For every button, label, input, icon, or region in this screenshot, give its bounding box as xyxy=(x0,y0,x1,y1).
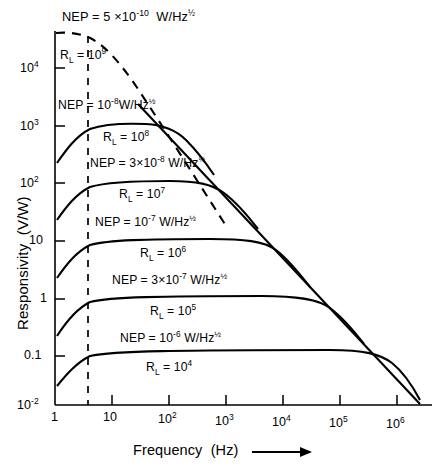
frequency-arrow-icon xyxy=(252,447,312,457)
y-tick-label-1: 1 xyxy=(40,291,47,305)
x-tick-label-1: 1 xyxy=(51,410,58,424)
annotation-rl-1e4: RL = 104 xyxy=(146,358,192,377)
y-tick-label-1e4: 104 xyxy=(20,59,39,75)
x-axis-title: Frequency (Hz) xyxy=(133,442,238,458)
annotation-nep-1e-8: NEP = 10-8W/Hz½ xyxy=(58,96,156,112)
x-tick-marks xyxy=(112,395,397,405)
annotation-rl-1e8: RL = 108 xyxy=(103,128,149,147)
annotation-rl-1e7: RL = 107 xyxy=(119,185,165,204)
annotation-rl-1e6: RL = 106 xyxy=(140,244,186,263)
y-tick-label-1e3: 103 xyxy=(20,117,39,133)
y-tick-label-1e2: 102 xyxy=(20,174,39,190)
y-axis-title: Responsivity (V/W) xyxy=(14,196,31,330)
y-tick-label-10: 10 xyxy=(29,233,43,247)
annotation-nep-3e-7: NEP = 3×10-7 W/Hz½ xyxy=(112,271,227,287)
y-tick-label-0.1: 0.1 xyxy=(24,348,42,362)
annotation-nep-3e-8: NEP = 3×10-8 W/Hz½ xyxy=(90,154,205,170)
curve-rl-1e4 xyxy=(57,350,420,400)
annotation-nep-1e-7: NEP = 10-7 W/Hz½ xyxy=(95,213,196,229)
annotation-rl-1e9: RL = 109 xyxy=(60,46,106,65)
x-tick-label-1e5: 105 xyxy=(329,414,348,430)
x-tick-label-1e6: 106 xyxy=(386,415,405,431)
annotation-nep-5e-10: NEP = 5 ×10-10 W/Hz½ xyxy=(62,8,195,24)
x-tick-label-1e2: 102 xyxy=(158,410,177,426)
annotation-rl-1e5: RL = 105 xyxy=(150,302,196,321)
x-tick-label-10: 10 xyxy=(103,410,117,424)
x-tick-label-1e4: 104 xyxy=(272,413,291,429)
responsivity-vs-frequency-chart: 104 103 102 10 1 0.1 10-2 1 10 102 103 1… xyxy=(0,0,440,469)
x-tick-label-1e3: 103 xyxy=(215,412,234,428)
annotation-nep-1e-6: NEP = 10-6 W/Hz½ xyxy=(120,329,221,345)
y-tick-label-1e-2: 10-2 xyxy=(17,396,39,412)
chart-canvas xyxy=(0,0,440,469)
